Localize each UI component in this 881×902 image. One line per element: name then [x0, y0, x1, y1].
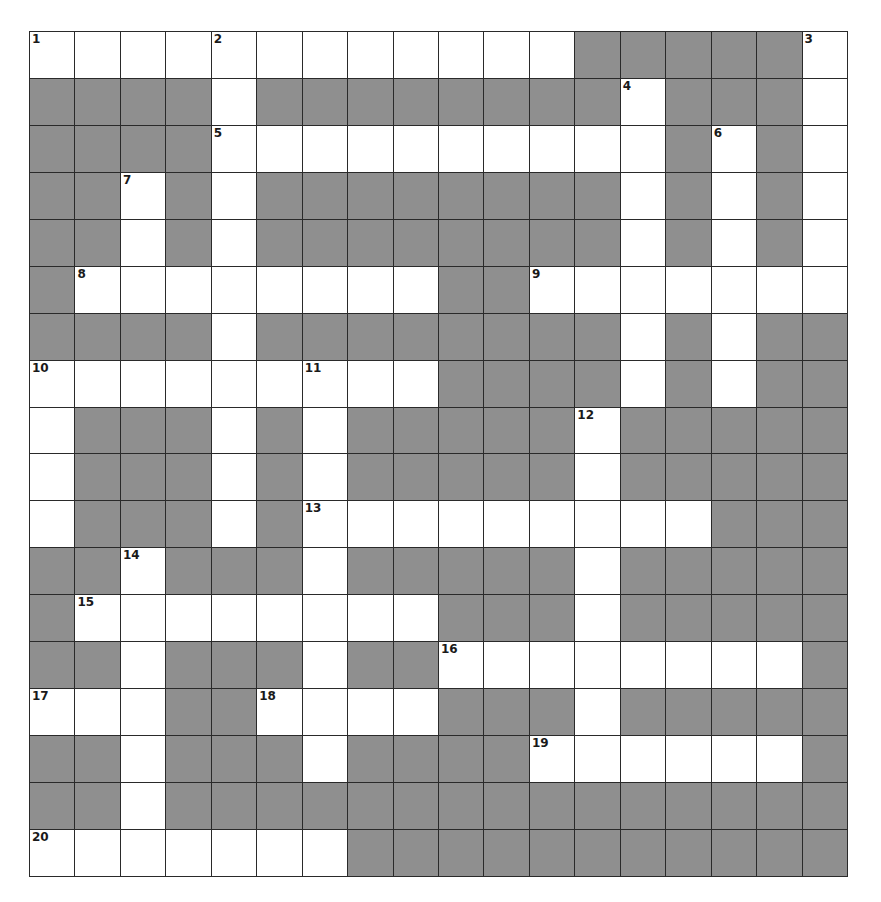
crossword-cell[interactable] [394, 32, 438, 78]
crossword-cell[interactable] [803, 79, 847, 125]
crossword-cell[interactable] [303, 736, 347, 782]
crossword-cell[interactable]: 9 [530, 267, 574, 313]
crossword-cell[interactable] [712, 220, 756, 266]
crossword-cell[interactable]: 16 [439, 642, 483, 688]
crossword-cell[interactable] [166, 595, 210, 641]
crossword-cell[interactable] [621, 361, 665, 407]
crossword-cell[interactable] [121, 642, 165, 688]
crossword-cell[interactable]: 12 [575, 408, 619, 454]
crossword-cell[interactable] [303, 408, 347, 454]
crossword-cell[interactable]: 13 [303, 501, 347, 547]
crossword-cell[interactable] [348, 361, 392, 407]
crossword-cell[interactable] [575, 689, 619, 735]
crossword-cell[interactable]: 18 [257, 689, 301, 735]
crossword-cell[interactable]: 6 [712, 126, 756, 172]
crossword-cell[interactable] [75, 689, 119, 735]
crossword-cell[interactable] [303, 689, 347, 735]
crossword-cell[interactable] [212, 595, 256, 641]
crossword-cell[interactable] [166, 32, 210, 78]
crossword-cell[interactable] [348, 267, 392, 313]
crossword-cell[interactable] [484, 642, 528, 688]
crossword-cell[interactable] [621, 173, 665, 219]
crossword-cell[interactable]: 4 [621, 79, 665, 125]
crossword-cell[interactable] [303, 32, 347, 78]
crossword-cell[interactable] [348, 32, 392, 78]
crossword-cell[interactable] [75, 32, 119, 78]
crossword-cell[interactable] [530, 501, 574, 547]
crossword-cell[interactable] [621, 736, 665, 782]
crossword-cell[interactable] [803, 267, 847, 313]
crossword-cell[interactable] [212, 501, 256, 547]
crossword-cell[interactable] [166, 361, 210, 407]
crossword-cell[interactable] [303, 830, 347, 876]
crossword-cell[interactable] [303, 642, 347, 688]
crossword-cell[interactable] [303, 126, 347, 172]
crossword-cell[interactable] [394, 267, 438, 313]
crossword-cell[interactable] [75, 361, 119, 407]
crossword-cell[interactable] [803, 173, 847, 219]
crossword-cell[interactable] [712, 267, 756, 313]
crossword-cell[interactable] [757, 642, 801, 688]
crossword-cell[interactable] [212, 314, 256, 360]
crossword-cell[interactable] [30, 408, 74, 454]
crossword-cell[interactable] [621, 314, 665, 360]
crossword-cell[interactable] [121, 220, 165, 266]
crossword-cell[interactable] [30, 501, 74, 547]
crossword-cell[interactable] [394, 126, 438, 172]
crossword-cell[interactable] [257, 595, 301, 641]
crossword-cell[interactable] [439, 501, 483, 547]
crossword-cell[interactable] [575, 501, 619, 547]
crossword-cell[interactable] [484, 501, 528, 547]
crossword-cell[interactable]: 3 [803, 32, 847, 78]
crossword-cell[interactable] [575, 595, 619, 641]
crossword-cell[interactable] [666, 501, 710, 547]
crossword-cell[interactable]: 8 [75, 267, 119, 313]
crossword-cell[interactable] [621, 501, 665, 547]
crossword-cell[interactable] [712, 361, 756, 407]
crossword-cell[interactable] [621, 126, 665, 172]
crossword-cell[interactable] [121, 830, 165, 876]
crossword-cell[interactable] [348, 595, 392, 641]
crossword-cell[interactable] [575, 736, 619, 782]
crossword-cell[interactable] [621, 220, 665, 266]
crossword-cell[interactable] [257, 361, 301, 407]
crossword-cell[interactable] [575, 548, 619, 594]
crossword-cell[interactable] [257, 267, 301, 313]
crossword-cell[interactable] [257, 32, 301, 78]
crossword-cell[interactable]: 2 [212, 32, 256, 78]
crossword-cell[interactable] [257, 830, 301, 876]
crossword-cell[interactable] [166, 830, 210, 876]
crossword-cell[interactable] [394, 361, 438, 407]
crossword-cell[interactable] [212, 454, 256, 500]
crossword-cell[interactable] [348, 126, 392, 172]
crossword-cell[interactable] [121, 595, 165, 641]
crossword-cell[interactable] [530, 642, 574, 688]
crossword-cell[interactable]: 15 [75, 595, 119, 641]
crossword-cell[interactable] [75, 830, 119, 876]
crossword-cell[interactable] [212, 220, 256, 266]
crossword-cell[interactable] [803, 220, 847, 266]
crossword-cell[interactable] [212, 408, 256, 454]
crossword-cell[interactable]: 20 [30, 830, 74, 876]
crossword-cell[interactable] [121, 32, 165, 78]
crossword-cell[interactable] [484, 32, 528, 78]
crossword-cell[interactable] [166, 267, 210, 313]
crossword-cell[interactable] [394, 501, 438, 547]
crossword-cell[interactable] [257, 126, 301, 172]
crossword-cell[interactable] [757, 736, 801, 782]
crossword-cell[interactable]: 11 [303, 361, 347, 407]
crossword-cell[interactable] [666, 736, 710, 782]
crossword-cell[interactable] [394, 595, 438, 641]
crossword-cell[interactable] [712, 173, 756, 219]
crossword-cell[interactable] [712, 642, 756, 688]
crossword-cell[interactable] [575, 642, 619, 688]
crossword-cell[interactable] [666, 267, 710, 313]
crossword-cell[interactable] [439, 126, 483, 172]
crossword-cell[interactable]: 1 [30, 32, 74, 78]
crossword-cell[interactable] [575, 126, 619, 172]
crossword-cell[interactable] [621, 267, 665, 313]
crossword-cell[interactable] [212, 361, 256, 407]
crossword-cell[interactable]: 17 [30, 689, 74, 735]
crossword-cell[interactable] [530, 32, 574, 78]
crossword-cell[interactable] [121, 689, 165, 735]
